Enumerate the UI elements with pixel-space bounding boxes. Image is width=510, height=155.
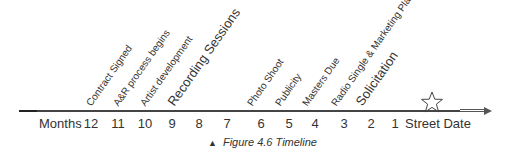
tick-label: 9 [168, 116, 175, 131]
caption-text: Figure 4.6 Timeline [223, 136, 317, 148]
figure-caption: ▲Figure 4.6 Timeline [208, 136, 317, 148]
timeline-axis [19, 110, 479, 112]
star-outline-icon [420, 91, 444, 113]
axis-label: Months [39, 116, 82, 131]
tick-label: Street Date [405, 116, 471, 131]
timeline-axis-start [19, 110, 37, 112]
tick-label: 8 [195, 116, 202, 131]
timeline-arrow-shaft [460, 109, 486, 112]
triangle-marker-icon: ▲ [208, 138, 217, 148]
tick-label: 7 [223, 116, 230, 131]
arrow-right-icon [484, 107, 492, 115]
tick-label: 12 [84, 116, 98, 131]
tick-label: 3 [340, 116, 347, 131]
tick-label: 1 [391, 116, 398, 131]
tick-label: 11 [111, 116, 125, 131]
tick-label: 5 [285, 116, 292, 131]
tick-label: 10 [138, 116, 152, 131]
tick-label: 2 [367, 116, 374, 131]
timeline-diagram: Months 121110987654321Street Date Contra… [0, 0, 510, 155]
tick-label: 4 [311, 116, 318, 131]
tick-label: 6 [257, 116, 264, 131]
event-label: Publicity [274, 72, 304, 108]
